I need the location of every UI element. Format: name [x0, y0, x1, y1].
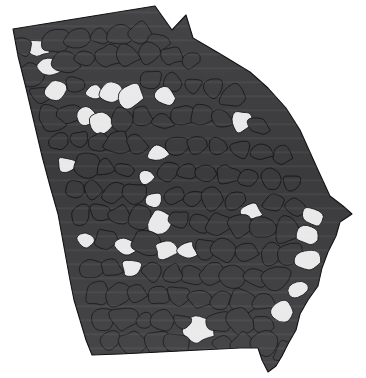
- choropleth-map-figure: [0, 0, 366, 378]
- county-layer: [0, 0, 366, 378]
- georgia-county-map[interactable]: [0, 0, 366, 378]
- tone-overlay: [0, 0, 366, 378]
